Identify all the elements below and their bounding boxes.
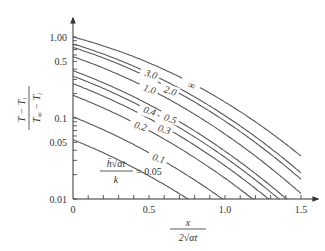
svg-text:2√αt: 2√αt [179, 232, 198, 243]
x-tick-label: 1.0 [219, 204, 232, 215]
x-tick-label: 0.5 [143, 204, 156, 215]
y-tick-label: 0.5 [55, 56, 68, 67]
y-tick-label: 0.1 [55, 113, 68, 124]
curve-∞ [73, 37, 301, 156]
svg-text:T − Ti: T − Ti [16, 98, 29, 123]
curve-labels: ∞3.02.01.00.50.40.30.20.1 [128, 67, 202, 168]
svg-text:h̄√αt: h̄√αt [107, 158, 126, 169]
x-axis-ticks: 00.51.01.5 [71, 195, 308, 215]
x-tick-label: 1.5 [295, 204, 308, 215]
curve-0.05 [73, 140, 189, 199]
curves [73, 37, 301, 199]
svg-text:T∞ − Ti: T∞ − Ti [31, 93, 44, 123]
svg-text:k: k [114, 174, 119, 185]
y-tick-label: 1.00 [50, 32, 68, 43]
x-axis-label: x 2√αt [170, 217, 206, 243]
y-axis-label: T − Ti T∞ − Ti [16, 86, 44, 130]
svg-text:x: x [185, 217, 191, 228]
svg-text:= 0.05: = 0.05 [136, 166, 162, 177]
curve-3.0 [73, 44, 301, 173]
y-tick-label: 0.01 [50, 194, 68, 205]
y-tick-label: 0.05 [50, 137, 68, 148]
x-tick-label: 0 [71, 204, 76, 215]
chart: 0.010.050.10.51.00 00.51.01.5 ∞3.02.01.0… [0, 0, 325, 251]
curve-1.0 [73, 57, 301, 194]
